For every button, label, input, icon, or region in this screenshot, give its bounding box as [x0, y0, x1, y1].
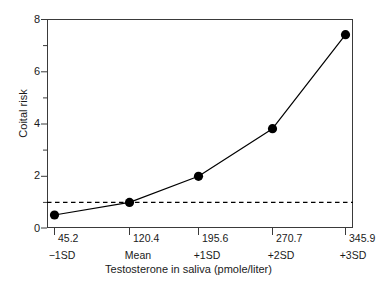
data-series-line: [55, 35, 346, 215]
x-axis-ticks: [55, 228, 346, 235]
data-point-minus1sd: [50, 210, 59, 219]
data-point-plus1sd: [194, 172, 203, 181]
data-point-plus2sd: [268, 124, 277, 133]
data-point-markers: [50, 30, 350, 219]
figure-canvas: 8 6 4 2 0 Coital risk 45.2 120.4 195.6 2…: [0, 0, 377, 282]
data-point-mean: [125, 198, 134, 207]
plot-data-layer: [0, 0, 377, 282]
y-axis-ticks: [41, 20, 47, 229]
data-point-plus3sd: [341, 30, 350, 39]
